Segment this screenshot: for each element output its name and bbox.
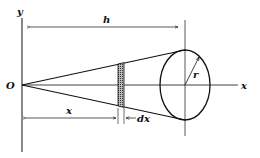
- radius-label: r: [193, 69, 199, 80]
- position-label: x: [65, 105, 73, 116]
- origin-label: O: [6, 80, 15, 91]
- hatched-slice: [118, 63, 124, 108]
- y-axis-label: y: [16, 6, 24, 17]
- slice-width-label: dx: [137, 113, 151, 124]
- height-label: h: [103, 14, 110, 25]
- cone-volume-diagram: y x O h r x dx: [0, 0, 260, 158]
- x-axis-label: x: [240, 80, 248, 91]
